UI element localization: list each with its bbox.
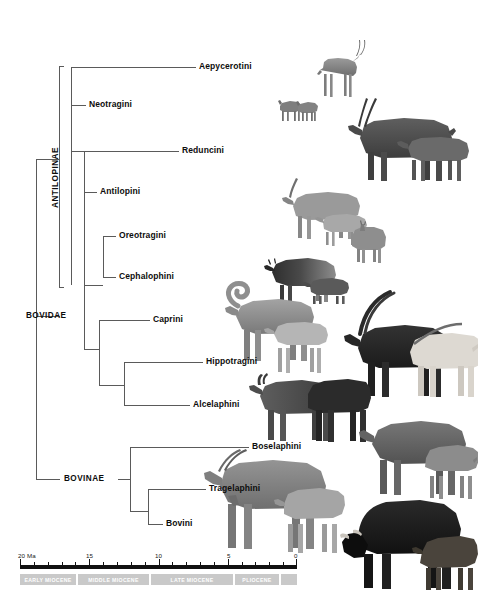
epoch-late-miocene: LATE MIOCENE <box>151 574 233 585</box>
timescale-axis <box>0 559 320 573</box>
epoch-pleistocene <box>281 574 297 585</box>
epoch-pliocene: PLIOCENE <box>235 574 279 585</box>
animal-neotragini-dikdik <box>278 96 318 126</box>
clade-label-antilopinae: ANTILOPINAE <box>52 147 60 208</box>
epoch-early-miocene: EARLY MIOCENE <box>20 574 76 585</box>
tip-label-tragelaphini: Tragelaphini <box>209 484 260 493</box>
tip-label-reduncini: Reduncini <box>182 146 224 155</box>
tip-label-boselaphini: Boselaphini <box>252 442 301 451</box>
geologic-timescale: 20 Ma 15 10 5 0 <box>0 546 478 612</box>
animal-aepycerotini-impala <box>312 34 372 100</box>
tip-label-neotragini: Neotragini <box>89 100 132 109</box>
tip-label-aepycerotini: Aepycerotini <box>199 62 252 71</box>
tip-label-caprini: Caprini <box>153 315 183 324</box>
animal-tragelaphini-eland <box>204 444 340 554</box>
figure-canvas: Aepycerotini Neotragini Reduncini Antilo… <box>0 0 478 612</box>
tip-label-oreotragini: Oreotragini <box>119 231 166 240</box>
clade-label-bovidae: BOVIDAE <box>26 312 66 320</box>
epoch-middle-miocene: MIDDLE MIOCENE <box>78 574 149 585</box>
animal-alcelaphini-hartebeest-wildebeest <box>250 372 370 444</box>
tip-label-antilopini: Antilopini <box>100 187 140 196</box>
clade-label-bovinae: BOVINAE <box>64 475 104 483</box>
animal-reduncini-waterbuck <box>348 92 476 184</box>
tip-label-bovini: Bovini <box>166 519 193 528</box>
animal-oreotragini-klipspringer <box>346 218 386 264</box>
tip-label-alcelaphini: Alcelaphini <box>193 400 239 409</box>
tip-label-hippotragini: Hippotragini <box>206 357 257 366</box>
tip-label-cephalophini: Cephalophini <box>119 272 174 281</box>
